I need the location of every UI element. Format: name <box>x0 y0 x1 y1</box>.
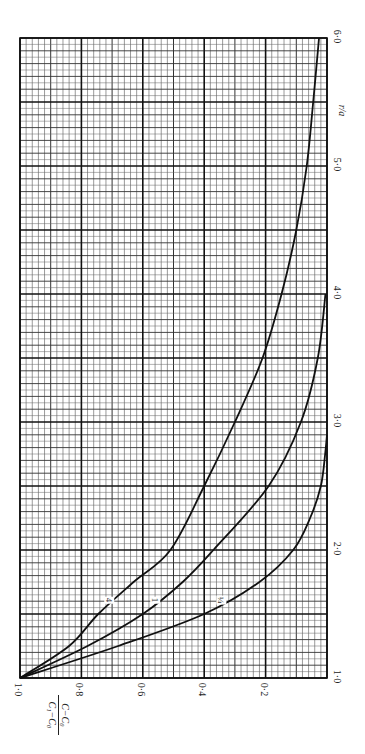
x-tick-label: 4·0 <box>332 286 343 299</box>
curve-label-2: 1 <box>150 597 160 604</box>
chart-plot <box>0 0 365 754</box>
y-axis-title: C−C₀ C₁−C₀ <box>41 695 71 735</box>
x-tick-label: 5·0 <box>332 158 343 171</box>
y-tick-label: 1·0 <box>13 683 24 696</box>
y-tick-label: 0·4 <box>197 683 208 696</box>
x-tick-label: 2·0 <box>332 542 343 555</box>
x-tick-label: 6·0 <box>332 30 343 43</box>
y-axis-title-denominator: C₁−C₀ <box>46 695 58 735</box>
x-tick-label: 1·0 <box>332 670 343 683</box>
x-tick-label: 3·0 <box>332 414 343 427</box>
curve-label-3: ¼ <box>216 596 226 605</box>
y-tick-label: 0·2 <box>259 683 270 696</box>
y-tick-label: 0·6 <box>136 683 147 696</box>
y-axis-title-numerator: C−C₀ <box>58 695 71 735</box>
curve-label-1: 4 <box>104 597 114 604</box>
x-axis-title: r/a <box>337 105 348 117</box>
y-tick-label: 0·8 <box>75 683 86 696</box>
